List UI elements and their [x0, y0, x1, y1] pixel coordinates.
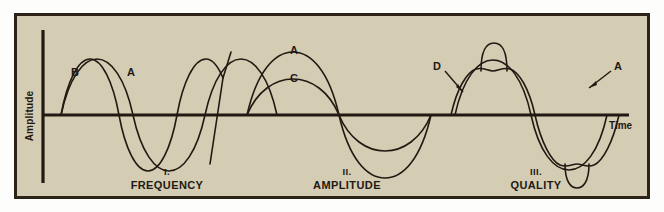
section-numeral-frequency: I. — [164, 166, 170, 177]
label-quality-a: A — [614, 60, 622, 72]
label-quality-d: D — [433, 60, 441, 72]
arrow-head-quality-a — [589, 81, 597, 88]
label-amplitude-a: A — [290, 44, 298, 56]
y-axis-title: Amplitude — [24, 90, 35, 141]
section-name-amplitude: AMPLITUDE — [313, 179, 381, 191]
wave-diagram-svg: B A A C D A — [17, 16, 653, 202]
section-name-frequency: FREQUENCY — [131, 179, 204, 191]
section-numeral-amplitude: II. — [343, 166, 352, 177]
label-frequency-b: B — [71, 66, 79, 78]
label-amplitude-c: C — [290, 72, 298, 84]
wave-characteristics-figure: B A A C D A — [0, 0, 664, 212]
section-name-quality: QUALITY — [510, 179, 561, 191]
label-frequency-a: A — [127, 66, 135, 78]
wave-path-quality-d-crest-lobe — [481, 43, 507, 71]
section-numeral-quality: III. — [530, 166, 542, 177]
diagram-panel: B A A C D A — [14, 13, 650, 199]
x-axis-title: Time — [609, 120, 633, 131]
